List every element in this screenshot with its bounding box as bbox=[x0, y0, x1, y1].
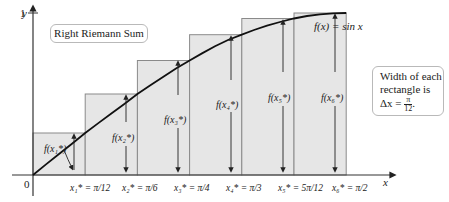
title-box: Right Riemann Sum bbox=[50, 24, 148, 43]
width-note-box: Width of each rectangle is Δx = π 12 . bbox=[372, 66, 444, 116]
width-note-line2: rectangle is bbox=[380, 83, 443, 96]
delta-prefix: Δx = bbox=[380, 97, 402, 109]
function-label: f(x) = sin x bbox=[314, 20, 363, 33]
x-label-2: x₂* = π/6 bbox=[121, 183, 158, 193]
width-note-formula: Δx = π 12 . bbox=[380, 96, 443, 113]
x-label-5: x₅* = 5π/12 bbox=[277, 183, 323, 193]
x-label-3: x₃* = π/4 bbox=[173, 183, 210, 193]
origin-label: 0 bbox=[24, 178, 30, 190]
title-label: Right Riemann Sum bbox=[54, 27, 144, 39]
x-label-6: x₆* = π/2 bbox=[331, 183, 368, 193]
width-note-line1: Width of each bbox=[380, 70, 443, 83]
f-label-2: f(x₂*) bbox=[112, 132, 135, 144]
f-label-4: f(x₄*) bbox=[216, 99, 239, 111]
f-label-1: f(x₁*) bbox=[44, 143, 67, 155]
f-label-5: f(x₅*) bbox=[268, 92, 291, 104]
f-label-6: f(x₆*) bbox=[321, 92, 344, 104]
x-label-4: x₄* = π/3 bbox=[225, 183, 262, 193]
x-label-1: x₁* = π/12 bbox=[69, 183, 111, 193]
delta-suffix: . bbox=[412, 97, 415, 109]
f-label-3: f(x₃*) bbox=[164, 114, 187, 126]
x-axis-label: x bbox=[382, 176, 388, 188]
y-tick-label: 1 bbox=[20, 7, 26, 19]
